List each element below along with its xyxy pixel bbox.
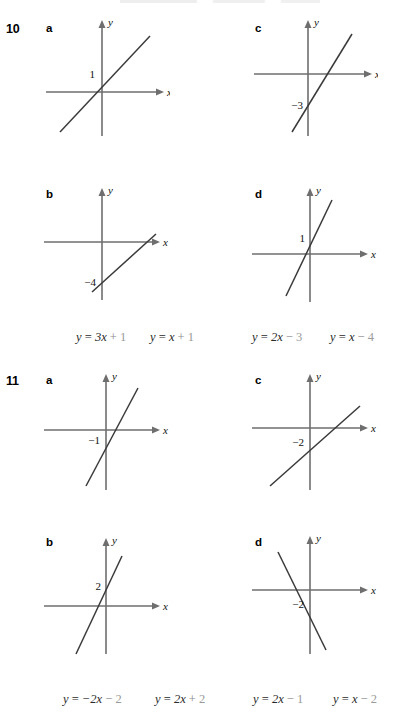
eq-term: −2x xyxy=(82,692,102,706)
equation-11-2: y = 2x + 2 xyxy=(155,692,205,707)
intercept-label-11d: −2 xyxy=(292,598,304,610)
graph-11c: −2 xy xyxy=(248,366,378,494)
equation-11-4: y = x − 2 xyxy=(333,692,377,707)
equation-10-4: y = x − 4 xyxy=(330,330,374,345)
eq-op: + xyxy=(178,330,185,344)
x-axis-label: x xyxy=(370,248,376,260)
eq-constant: 2 xyxy=(371,692,377,706)
intercept-label-10d: 1 xyxy=(300,232,306,244)
page-header-fragment xyxy=(120,0,320,3)
eq-term: 2x xyxy=(174,692,186,706)
y-axis-label: y xyxy=(111,370,117,382)
graph-10d: 1 xy xyxy=(248,180,378,308)
eq-constant: 1 xyxy=(120,330,126,344)
eq-constant: 3 xyxy=(296,330,302,344)
y-axis-label: y xyxy=(315,532,321,544)
intercept-label-11b: 2 xyxy=(96,580,102,592)
eq-op: + xyxy=(110,330,117,344)
x-axis-label: x xyxy=(162,600,168,612)
equation-10-1: y = 3x + 1 xyxy=(76,330,126,345)
equation-row-q10: y = 3x + 1 y = x + 1 y = 2x − 3 y = x − … xyxy=(0,330,408,348)
y-axis-label: y xyxy=(107,184,113,196)
equation-row-q11: y = −2x − 2 y = 2x + 2 y = 2x − 1 y = x … xyxy=(0,692,408,710)
eq-term: 2x xyxy=(272,692,284,706)
x-axis-label: x xyxy=(162,424,168,436)
graph-11a: −1 xy xyxy=(40,366,170,494)
y-axis-label: y xyxy=(111,534,117,546)
y-axis-label: y xyxy=(107,16,113,28)
intercept-label-10a: 1 xyxy=(90,68,96,80)
intercept-label-11a: −1 xyxy=(88,434,100,446)
eq-constant: 1 xyxy=(297,692,303,706)
eq-op: + xyxy=(189,692,196,706)
equation-10-2: y = x + 1 xyxy=(150,330,194,345)
eq-op: − xyxy=(358,330,365,344)
x-axis-label: x xyxy=(374,68,378,80)
x-axis-label: x xyxy=(370,584,376,596)
y-axis-label: y xyxy=(315,184,321,196)
equation-11-1: y = −2x − 2 xyxy=(63,692,122,707)
graph-10b: −4 xy xyxy=(40,180,170,308)
eq-constant: 1 xyxy=(188,330,194,344)
x-axis-label: x xyxy=(162,236,168,248)
x-axis-label: x xyxy=(166,86,170,98)
eq-op: − xyxy=(287,692,294,706)
intercept-label-11c: −2 xyxy=(292,436,304,448)
eq-constant: 4 xyxy=(368,330,374,344)
intercept-label-10c: −3 xyxy=(291,99,303,111)
equation-11-3: y = 2x − 1 xyxy=(253,692,303,707)
question-number-10: 10 xyxy=(6,22,20,36)
x-axis-label: x xyxy=(370,422,376,434)
graph-11b: 2 xy xyxy=(40,528,170,656)
eq-term: 2x xyxy=(271,330,283,344)
question-number-11: 11 xyxy=(6,374,19,388)
graph-11d: −2 xy xyxy=(248,528,378,656)
graph-10c: −3 xy xyxy=(248,14,378,142)
y-axis-label: y xyxy=(313,16,319,28)
equation-10-3: y = 2x − 3 xyxy=(252,330,302,345)
eq-op: − xyxy=(286,330,293,344)
intercept-label-10b: −4 xyxy=(84,276,96,288)
eq-op: − xyxy=(361,692,368,706)
eq-op: − xyxy=(105,692,112,706)
eq-term: 3x xyxy=(95,330,107,344)
exercise-page: 10 a 1 xy c −3 xy b xyxy=(0,0,408,726)
eq-constant: 2 xyxy=(115,692,121,706)
graph-10a: 1 xy xyxy=(40,14,170,142)
y-axis-label: y xyxy=(315,370,321,382)
eq-constant: 2 xyxy=(199,692,205,706)
